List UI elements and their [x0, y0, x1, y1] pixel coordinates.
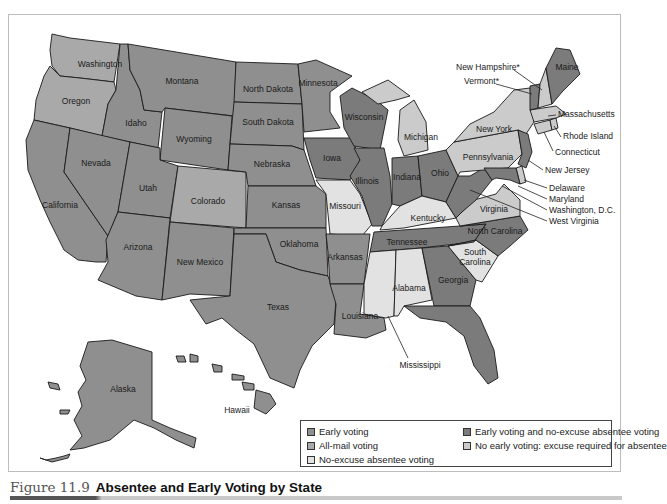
label-tennessee: Tennessee [386, 237, 427, 247]
legend-item-no-early-excuse-required: No early voting: excuse required for abs… [463, 440, 667, 451]
state-maine [546, 48, 580, 104]
leader-delaware [524, 180, 547, 188]
label-west-virginia: West Virginia [549, 216, 599, 226]
leader-new-jersey [528, 160, 543, 170]
label-alaska: Alaska [110, 384, 136, 394]
hawaii-island-1 [176, 356, 186, 362]
label-nebraska: Nebraska [254, 159, 291, 169]
legend-label-all-mail: All-mail voting [319, 440, 378, 451]
state-mississippi [364, 250, 396, 318]
label-oregon: Oregon [62, 96, 91, 106]
label-colorado: Colorado [191, 196, 226, 206]
label-new-hampshire: New Hampshire* [456, 62, 520, 72]
legend-item-no-excuse-absentee: No-excuse absentee voting [307, 454, 434, 465]
label-pennsylvania: Pennsylvania [463, 152, 514, 162]
label-ohio: Ohio [431, 168, 449, 178]
label-california: California [42, 200, 78, 210]
label-arkansas: Arkansas [327, 252, 362, 262]
state-michigan [398, 100, 428, 156]
label-minnesota: Minnesota [298, 78, 337, 88]
legend-item-all-mail: All-mail voting [307, 440, 378, 451]
label-vermont: Vermont* [464, 76, 500, 86]
label-maryland: Maryland [549, 194, 584, 204]
legend-item-early-and-no-excuse: Early voting and no-excuse absentee voti… [463, 426, 659, 437]
label-virginia: Virginia [480, 204, 508, 214]
hawaii-island-2 [190, 354, 198, 362]
label-new-mexico: New Mexico [177, 257, 224, 267]
hawaii-island-5 [242, 382, 254, 390]
hawaii-island-4 [232, 374, 244, 380]
figure-caption: Figure 11.9Absentee and Early Voting by … [10, 479, 322, 495]
label-south-carolina-2: Carolina [459, 257, 491, 267]
legend-label-early-voting: Early voting [319, 426, 369, 437]
label-idaho: Idaho [125, 118, 147, 128]
state-connecticut [534, 120, 552, 134]
state-florida [404, 306, 498, 384]
legend-label-early-and-no-excuse: Early voting and no-excuse absentee voti… [475, 426, 659, 437]
label-georgia: Georgia [438, 275, 469, 285]
label-kansas: Kansas [272, 200, 300, 210]
label-oklahoma: Oklahoma [280, 239, 319, 249]
hawaii-island-3 [212, 364, 222, 372]
label-kentucky: Kentucky [411, 213, 447, 223]
swatch-early-voting [307, 428, 315, 436]
figure-title: Absentee and Early Voting by State [96, 480, 322, 495]
alaska-island-3 [40, 454, 70, 462]
label-indiana: Indiana [393, 172, 421, 182]
state-washington [50, 34, 120, 82]
label-texas: Texas [267, 302, 289, 312]
label-iowa: Iowa [323, 153, 341, 163]
state-north-dakota [234, 62, 302, 104]
label-north-dakota: North Dakota [243, 84, 293, 94]
label-louisiana: Louisiana [342, 311, 379, 321]
label-arizona: Arizona [124, 242, 153, 252]
label-new-jersey: New Jersey [545, 165, 590, 175]
label-wisconsin: Wisconsin [345, 112, 384, 122]
label-north-carolina: North Carolina [468, 226, 523, 236]
hawaii-island-6 [254, 390, 276, 414]
alaska-island-1 [48, 382, 60, 390]
state-rhode-island [550, 118, 558, 130]
label-massachusetts: Massachusetts [558, 109, 615, 119]
legend-item-early-voting: Early voting [307, 426, 369, 437]
alaska-island-2 [60, 410, 70, 414]
label-washington-dc: Washington, D.C. [549, 205, 615, 215]
label-wyoming: Wyoming [176, 134, 212, 144]
swatch-all-mail [307, 442, 315, 450]
label-delaware: Delaware [549, 183, 585, 193]
label-south-dakota: South Dakota [242, 117, 294, 127]
legend-label-no-excuse-absentee: No-excuse absentee voting [319, 454, 434, 465]
label-missouri: Missouri [329, 201, 361, 211]
label-maine: Maine [555, 62, 578, 72]
figure-number: Figure 11.9 [10, 479, 90, 495]
map-legend: Early voting All-mail voting No-excuse a… [300, 420, 612, 467]
label-illinois: Illinois [355, 176, 379, 186]
label-montana: Montana [165, 76, 198, 86]
swatch-no-early-excuse-required [463, 442, 471, 450]
label-michigan: Michigan [404, 132, 438, 142]
swatch-early-and-no-excuse [463, 428, 471, 436]
label-connecticut: Connecticut [555, 147, 601, 157]
leader-new-hampshire [514, 70, 542, 90]
label-new-york: New York [476, 124, 513, 134]
leader-connecticut [544, 132, 553, 151]
label-mississippi: Mississippi [399, 360, 440, 370]
label-alabama: Alabama [392, 283, 426, 293]
caption-rule [10, 496, 622, 500]
label-utah: Utah [139, 183, 157, 193]
label-nevada: Nevada [81, 158, 111, 168]
label-hawaii: Hawaii [224, 405, 250, 415]
label-rhode-island: Rhode Island [563, 131, 613, 141]
legend-label-no-early-excuse-required: No early voting: excuse required for abs… [475, 440, 667, 451]
swatch-no-excuse-absentee [307, 456, 315, 464]
leader-mississippi [388, 316, 408, 358]
label-south-carolina-1: South [464, 247, 486, 257]
label-washington: Washington [78, 59, 123, 69]
